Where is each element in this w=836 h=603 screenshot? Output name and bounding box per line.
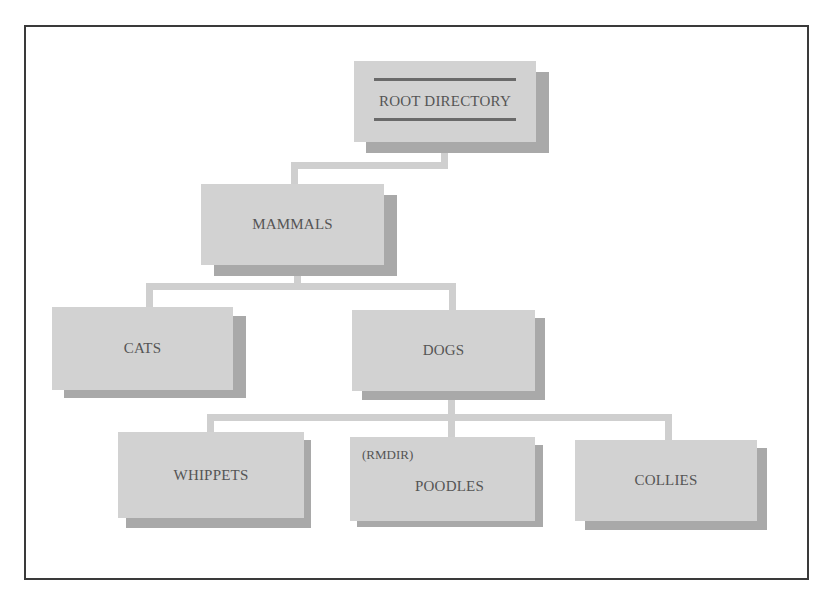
node-label: ROOT DIRECTORY — [379, 93, 511, 110]
node-label: WHIPPETS — [174, 467, 249, 484]
node-dogs[interactable]: DOGS — [352, 310, 535, 391]
root-bottom-rule — [374, 118, 516, 121]
connector-collies-up — [665, 414, 672, 440]
node-root-directory[interactable]: ROOT DIRECTORY — [354, 61, 536, 142]
connector-root-mammals-horizontal — [291, 162, 448, 169]
node-whippets[interactable]: WHIPPETS — [118, 432, 304, 518]
rmdir-annotation: (RMDIR) — [362, 447, 413, 463]
connector-mammals-up — [291, 162, 298, 184]
root-top-rule — [374, 78, 516, 81]
connector-dogs-children-horizontal — [207, 414, 672, 421]
connector-dogs-up — [449, 283, 456, 310]
node-cats[interactable]: CATS — [52, 307, 233, 390]
connector-whippets-up — [207, 414, 214, 432]
connector-cats-up — [146, 283, 153, 307]
connector-poodles-up — [448, 414, 455, 437]
connector-mammals-children-horizontal — [146, 283, 456, 290]
node-collies[interactable]: COLLIES — [575, 440, 757, 521]
node-label: MAMMALS — [252, 216, 333, 233]
node-label: COLLIES — [634, 472, 697, 489]
node-label: CATS — [124, 340, 161, 357]
node-label: POODLES — [415, 478, 484, 495]
node-label: DOGS — [423, 342, 465, 359]
node-mammals[interactable]: MAMMALS — [201, 184, 384, 265]
